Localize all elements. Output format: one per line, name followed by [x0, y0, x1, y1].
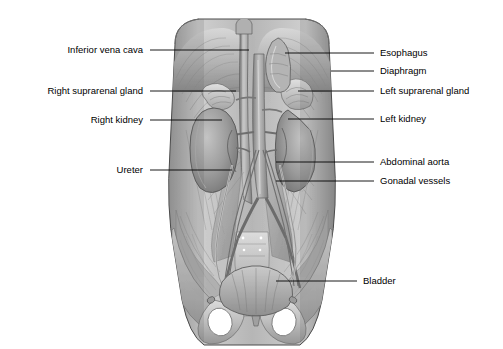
posterior-abdominal-wall: [169, 18, 336, 345]
label-right-suprarenal-gland: Right suprarenal gland: [0, 85, 143, 96]
label-gonadal-vessels: Gonadal vessels: [380, 175, 450, 186]
label-ureter: Ureter: [0, 164, 143, 175]
label-right-kidney: Right kidney: [0, 114, 143, 125]
label-diaphragm: Diaphragm: [380, 65, 426, 76]
label-inferior-vena-cava: Inferior vena cava: [0, 44, 143, 55]
label-left-kidney: Left kidney: [380, 113, 426, 124]
label-left-suprarenal-gland: Left suprarenal gland: [380, 85, 469, 96]
label-bladder: Bladder: [363, 275, 396, 286]
anatomy-figure-page: Inferior vena cavaRight suprarenal gland…: [0, 0, 503, 349]
label-esophagus: Esophagus: [380, 47, 428, 58]
label-abdominal-aorta: Abdominal aorta: [380, 156, 449, 167]
